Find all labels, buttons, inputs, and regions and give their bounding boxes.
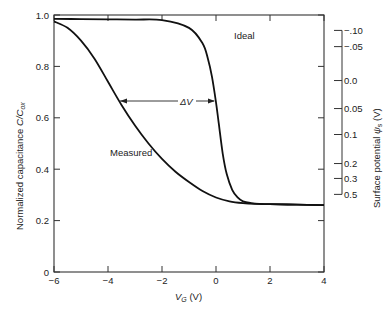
delta-v-annotation: ΔV: [120, 96, 215, 107]
y2-tick-label: 0.3: [344, 173, 357, 184]
x-tick-label: 4: [321, 275, 326, 286]
x-axis-ticks: −6−4−2024: [49, 15, 327, 286]
x-tick-label: 2: [267, 275, 272, 286]
y2-tick-label: 0.05: [344, 103, 363, 114]
x-tick-label: −4: [103, 275, 114, 286]
y2-tick-label: −.10: [344, 25, 363, 36]
delta-v-label: ΔV: [179, 96, 194, 107]
measured-curve: [54, 21, 324, 205]
y-tick-label: 0.4: [36, 164, 49, 175]
y2-tick-label: 0.0: [344, 75, 357, 86]
y2-tick-label: 0.5: [344, 189, 357, 200]
measured-label: Measured: [110, 147, 152, 158]
ideal-label: Ideal: [234, 30, 255, 41]
surface-potential-axis: −.10−.050.00.050.10.20.30.5: [334, 25, 363, 200]
cv-chart: −6−4−2024 00.20.40.60.81.0 −.10−.050.00.…: [0, 0, 391, 321]
y2-tick-label: 0.2: [344, 158, 357, 169]
x-tick-label: −2: [157, 275, 168, 286]
y-axis-ticks: 00.20.40.60.81.0: [36, 10, 324, 278]
x-tick-label: 0: [213, 275, 218, 286]
arrow-right-icon: [208, 99, 215, 104]
x-tick-label: −6: [49, 275, 60, 286]
y2-axis-title: Surface potential ψs (V): [371, 108, 383, 208]
y-tick-label: 1.0: [36, 10, 49, 21]
y-tick-label: 0.6: [36, 112, 49, 123]
y-tick-label: 0.8: [36, 61, 49, 72]
y-tick-label: 0.2: [36, 215, 49, 226]
plot-frame: [54, 15, 324, 272]
ideal-curve: [54, 19, 324, 205]
curves: [54, 19, 324, 205]
y2-tick-label: −.05: [344, 41, 363, 52]
y-axis-title: Normalized capacitance C/Cox: [14, 102, 26, 230]
y2-tick-label: 0.1: [344, 129, 357, 140]
x-axis-title: VG (V): [175, 291, 202, 303]
y-tick-label: 0: [44, 267, 49, 278]
